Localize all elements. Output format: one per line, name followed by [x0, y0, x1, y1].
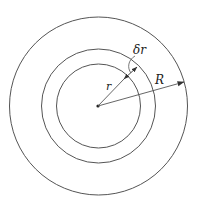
label-R: R — [154, 73, 164, 87]
concentric-circles-diagram: r δr R — [0, 0, 197, 207]
label-dr: δr — [133, 43, 147, 57]
label-r: r — [106, 80, 112, 93]
